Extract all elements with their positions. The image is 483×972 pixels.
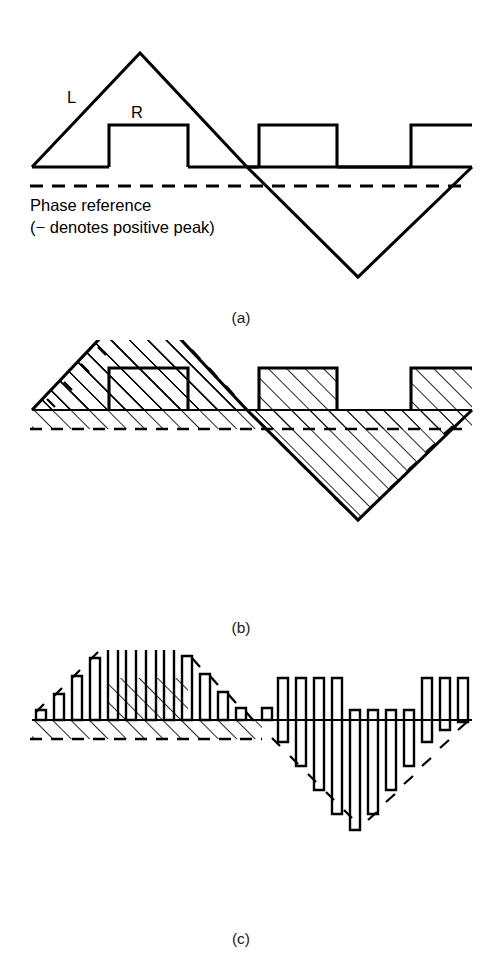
r-pulse-2 bbox=[259, 125, 337, 167]
sample-bar bbox=[262, 708, 272, 720]
sample-bar bbox=[350, 710, 360, 830]
hatch-r-pulse-2 bbox=[259, 368, 337, 410]
panel-c: (c) bbox=[0, 650, 483, 972]
sample-bar bbox=[278, 678, 288, 742]
sample-bar bbox=[386, 710, 396, 790]
sample-bar bbox=[314, 678, 324, 790]
panel-b-content bbox=[30, 340, 472, 520]
panel-a: L R Phase reference (− denotes positive … bbox=[0, 0, 483, 340]
sample-bar bbox=[332, 678, 342, 814]
sample-bar bbox=[404, 710, 414, 766]
annotation-phase-reference: Phase reference bbox=[30, 196, 151, 214]
sample-bar bbox=[368, 710, 378, 814]
sample-bar bbox=[296, 678, 306, 766]
sample-bar bbox=[458, 678, 468, 722]
l-channel-waveform bbox=[32, 53, 472, 277]
sample-bar bbox=[54, 694, 64, 720]
sample-bar bbox=[218, 692, 228, 720]
sample-bar bbox=[90, 658, 100, 720]
panel-b: (b) bbox=[0, 340, 483, 650]
sample-bar bbox=[200, 674, 210, 720]
panel-c-content bbox=[30, 650, 472, 830]
hatch-negative-triangle bbox=[247, 410, 472, 520]
hatch-reference-band bbox=[32, 720, 262, 739]
r-pulse-3 bbox=[411, 125, 472, 167]
sample-bar bbox=[236, 708, 246, 720]
sample-bar bbox=[422, 678, 432, 742]
sampling-bars-negative bbox=[262, 678, 468, 830]
sample-bar bbox=[440, 678, 450, 730]
figure-root: L R Phase reference (− denotes positive … bbox=[0, 0, 483, 972]
hatch-r-pulse-1 bbox=[109, 678, 188, 720]
r-pulse-1 bbox=[109, 125, 188, 167]
label-l: L bbox=[67, 88, 76, 106]
hatch-r-pulse-3 bbox=[411, 368, 472, 410]
caption-c: (c) bbox=[232, 930, 250, 947]
envelope-negative-right bbox=[368, 722, 467, 820]
caption-b: (b) bbox=[232, 619, 251, 636]
sample-bar bbox=[72, 676, 82, 720]
envelope-negative-left bbox=[272, 738, 352, 818]
annotation-positive-peak: (− denotes positive peak) bbox=[30, 218, 215, 236]
label-r: R bbox=[131, 103, 143, 121]
caption-a: (a) bbox=[232, 309, 251, 326]
